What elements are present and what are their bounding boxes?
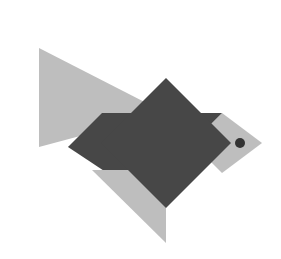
tangram-fish-figure <box>0 0 281 259</box>
artwork-canvas: Tangram Fish A geometric tangram-style f… <box>0 0 281 259</box>
eye-icon <box>235 138 245 148</box>
